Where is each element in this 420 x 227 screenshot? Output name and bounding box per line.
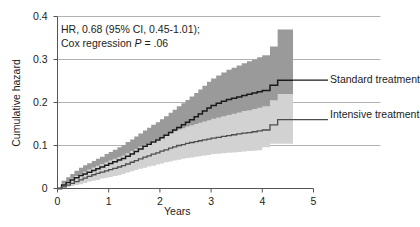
y-tick-label-0: 0 (22, 182, 48, 194)
annotation-line-p: Cox regression P = .06 (61, 37, 200, 51)
y-tick-label-2: 0.2 (22, 96, 48, 108)
y-tick-label-4: 0.4 (22, 10, 48, 22)
x-axis-label: Years (164, 205, 190, 217)
x-tick-label-2: 2 (152, 195, 168, 207)
x-tick-label-0: 0 (50, 195, 66, 207)
legend-label-standard: Standard treatment (330, 73, 420, 85)
y-tick-label-3: 0.3 (22, 53, 48, 65)
x-tick-label-4: 4 (254, 195, 270, 207)
y-tick-label-1: 0.1 (22, 139, 48, 151)
annotation-line-hr: HR, 0.68 (95% CI, 0.45-1.01); (61, 23, 200, 37)
x-tick-label-1: 1 (101, 195, 117, 207)
x-tick-label-3: 3 (203, 195, 219, 207)
y-axis-label: Cumulative hazard (10, 48, 22, 158)
legend-label-intensive: Intensive treatment (330, 108, 419, 120)
statistics-annotation: HR, 0.68 (95% CI, 0.45-1.01); Cox regres… (61, 23, 200, 50)
x-tick-label-5: 5 (306, 195, 322, 207)
